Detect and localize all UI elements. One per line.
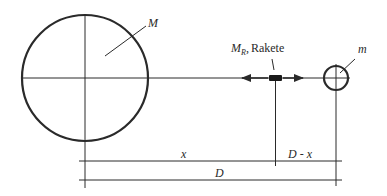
large-mass-body: M (22, 14, 159, 188)
rocket-leader-line (272, 59, 274, 70)
rocket-label: MR,Rakete (230, 41, 284, 57)
dimension-label-d: D (214, 166, 224, 180)
rocket-name: Rakete (251, 41, 284, 55)
rocket-label-separator: , (246, 41, 249, 55)
rocket-gravity-diagram: M MR,Rakete m x D - x D (0, 0, 387, 196)
rocket-body (269, 75, 282, 81)
dimension-label-x: x (180, 147, 187, 161)
large-mass-label: M (147, 16, 159, 30)
small-mass-label: m (358, 42, 367, 56)
small-mass-leader-line (340, 59, 355, 73)
small-mass-body: m (324, 42, 367, 186)
dimension-label-d-minus-x: D - x (287, 147, 313, 161)
dimension-lines: x D - x D (79, 147, 342, 180)
